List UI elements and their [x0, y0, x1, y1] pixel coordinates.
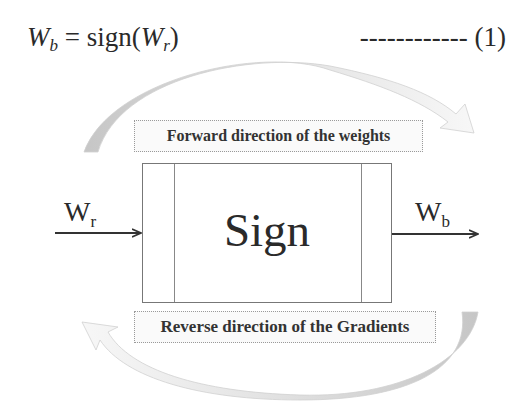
reverse-direction-label: Reverse direction of the Gradients: [134, 311, 436, 343]
equation-equals: =: [58, 22, 87, 52]
input-label: Wr: [64, 196, 96, 232]
equation-lhs-var: W: [27, 22, 50, 52]
equation: Wb = sign(Wr): [27, 22, 179, 56]
input-var: W: [64, 196, 90, 227]
input-sub: r: [90, 212, 96, 231]
forward-direction-label: Forward direction of the weights: [134, 120, 423, 152]
equation-arg-sub: r: [163, 36, 170, 55]
output-label: Wb: [415, 196, 450, 232]
output-var: W: [415, 196, 441, 227]
equation-func: sign(: [87, 22, 141, 52]
equation-lhs-sub: b: [50, 36, 59, 55]
equation-close: ): [170, 22, 179, 52]
equation-arg-var: W: [141, 22, 164, 52]
sign-block-label: Sign: [142, 203, 392, 257]
equation-number: ------------ (1): [360, 22, 506, 53]
output-sub: b: [441, 212, 450, 231]
